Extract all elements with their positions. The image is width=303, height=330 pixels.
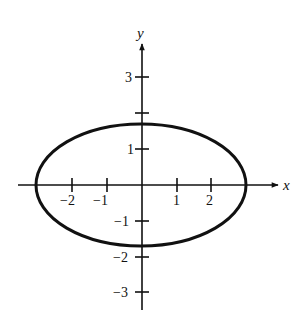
ellipse-diagram: x y −2 −1 1 2 3 1 −1 −2 −3 <box>0 0 303 330</box>
x-tick-label-neg2: −2 <box>60 193 75 208</box>
x-tick-label-1: 1 <box>173 193 180 208</box>
x-axis-label: x <box>282 177 290 193</box>
y-tick-label-neg1: −1 <box>114 214 129 229</box>
y-tick-label-1: 1 <box>127 142 134 157</box>
y-tick-label-neg2: −2 <box>113 250 128 265</box>
y-tick-label-neg3: −3 <box>113 285 128 300</box>
x-tick-label-neg1: −1 <box>93 193 108 208</box>
x-tick-label-2: 2 <box>206 193 213 208</box>
y-tick-label-3: 3 <box>125 70 132 85</box>
y-axis-label: y <box>135 25 144 41</box>
